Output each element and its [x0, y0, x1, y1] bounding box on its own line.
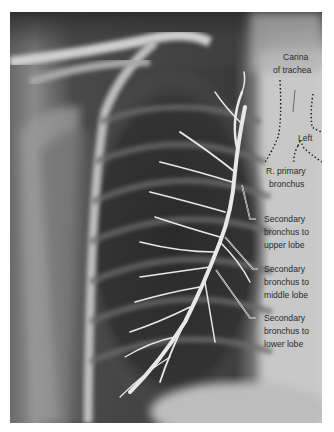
label-secondary-middle: Secondary bronchus to middle lobe — [264, 263, 309, 303]
label-secondary-upper: Secondary bronchus to upper lobe — [264, 213, 309, 253]
label-carina-line2: of trachea — [273, 64, 311, 77]
label-upper-line1: Secondary — [264, 213, 309, 226]
label-middle-line3: middle lobe — [264, 289, 309, 302]
label-lower-line2: bronchus to — [264, 325, 309, 338]
label-upper-line3: upper lobe — [264, 239, 309, 252]
label-r-primary-line1: R. primary — [266, 165, 306, 178]
label-middle-line2: bronchus to — [264, 276, 309, 289]
label-carina: Carina — [283, 51, 308, 64]
label-left: Left — [298, 132, 312, 145]
label-r-primary-bronchus: R. primary bronchus — [266, 165, 306, 191]
label-middle-line1: Secondary — [264, 263, 309, 276]
label-upper-line2: bronchus to — [264, 226, 309, 239]
label-lower-line1: Secondary — [264, 312, 309, 325]
label-lower-line3: lower lobe — [264, 338, 309, 351]
label-carina-line1: Carina — [283, 51, 308, 64]
label-carina-2: of trachea — [273, 64, 311, 77]
label-left-text: Left — [298, 133, 312, 143]
label-r-primary-line2: bronchus — [266, 178, 306, 191]
xray-image: Carina of trachea Left R. primary bronch… — [10, 12, 322, 423]
label-secondary-lower: Secondary bronchus to lower lobe — [264, 312, 309, 352]
